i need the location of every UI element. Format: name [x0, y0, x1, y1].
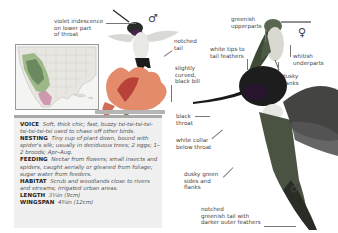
- range-map: [15, 44, 99, 110]
- leader-line: [195, 116, 210, 117]
- label-line: greenish tail with: [201, 213, 261, 220]
- label-line: tail: [174, 45, 197, 52]
- label-line: greenish: [231, 16, 262, 23]
- habitat-row: HABITAT Scrub and woodlands close to riv…: [20, 178, 160, 192]
- label-dusky-green-sides: dusky green sides and flanks: [184, 171, 218, 191]
- leader-line: [264, 226, 296, 227]
- label-violet-iridescence: violet iridescence on lower part of thro…: [54, 18, 103, 38]
- label-notched-greenish-tail: notched greenish tail with darker outer …: [201, 206, 261, 226]
- flower-icon: [95, 67, 167, 118]
- female-symbol: ♀: [298, 27, 306, 38]
- range-map-icon: [16, 45, 98, 109]
- leader-line: [106, 23, 136, 24]
- label-greenish-upperparts: greenish upperparts: [231, 16, 262, 29]
- leader-line: [265, 30, 266, 42]
- label-line: white tips to: [210, 46, 245, 53]
- leader-line: [290, 45, 291, 57]
- feeding-row: FEEDING Nectar from flowers; small insec…: [20, 156, 160, 177]
- male-hummingbird-flying-image: [105, 8, 180, 68]
- label-line: whitish: [293, 53, 324, 60]
- label-line: notched: [174, 38, 197, 45]
- label-white-collar: white collar below throat: [176, 137, 211, 150]
- label-line: black: [176, 113, 193, 120]
- species-info-text: VOICE Soft, thick chic; fast, buzzy tsi-…: [20, 121, 160, 206]
- label-line: of throat: [54, 31, 103, 38]
- label-line: notched: [201, 206, 261, 213]
- male-symbol-top: ♂: [148, 13, 158, 24]
- label-white-tips: white tips to tail feathers: [210, 46, 245, 59]
- label-line: flanks: [184, 184, 218, 191]
- label-line: below throat: [176, 144, 211, 151]
- wingspan-row: WINGSPAN 4¾in (12cm): [20, 199, 160, 206]
- nesting-row: NESTING Tiny cup of plant down, bound wi…: [20, 135, 160, 156]
- length-text: 3¼in (9cm): [49, 192, 81, 198]
- habitat-label: HABITAT: [20, 178, 47, 184]
- voice-text: Soft, thick chic; fast, buzzy tsi-tsi-ts…: [20, 121, 153, 134]
- voice-row: VOICE Soft, thick chic; fast, buzzy tsi-…: [20, 121, 160, 135]
- length-row: LENGTH 3¼in (9cm): [20, 192, 160, 199]
- nesting-label: NESTING: [20, 135, 48, 141]
- label-line: sides and: [184, 178, 218, 185]
- label-line: darker outer feathers: [201, 219, 261, 226]
- label-line: on lower part: [54, 25, 103, 32]
- voice-label: VOICE: [20, 121, 39, 127]
- label-line: throat: [176, 120, 193, 127]
- wingspan-label: WINGSPAN: [20, 199, 54, 205]
- label-line: violet iridescence: [54, 18, 103, 25]
- label-black-throat: black throat: [176, 113, 193, 126]
- label-line: tail feathers: [210, 53, 245, 60]
- male-symbol-main: ♂: [290, 183, 300, 194]
- label-line: upperparts: [231, 23, 262, 30]
- label-line: dusky green: [184, 171, 218, 178]
- feeding-label: FEEDING: [20, 156, 48, 162]
- label-notched-tail: notched tail: [174, 38, 197, 51]
- species-info-panel: VOICE Soft, thick chic; fast, buzzy tsi-…: [14, 118, 162, 228]
- label-line: white collar: [176, 137, 211, 144]
- wingspan-text: 4¾in (12cm): [58, 199, 93, 205]
- length-label: LENGTH: [20, 192, 45, 198]
